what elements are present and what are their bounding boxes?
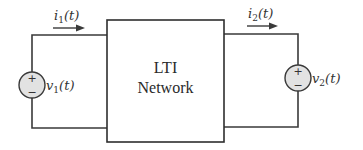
minus-sign: −: [27, 86, 36, 99]
lti-network-block: LTI Network: [107, 20, 224, 142]
v2-label: v2(t): [312, 71, 340, 88]
right-top-wire: [224, 34, 298, 65]
block-label-line2: Network: [138, 79, 194, 96]
current-i2: i2(t): [247, 6, 278, 30]
plus-sign: +: [27, 72, 36, 85]
i1-label: i1(t): [54, 8, 79, 25]
v1-argument: (t): [59, 78, 74, 93]
voltage-source-v1: + − v1(t): [19, 72, 74, 99]
two-port-network-diagram: LTI Network + − v1(t) + − v2(t) i1(t) i2…: [0, 0, 363, 150]
left-top-wire: [32, 35, 107, 72]
i2-label: i2(t): [248, 6, 273, 23]
plus-sign: +: [293, 65, 302, 78]
block-label-line1: LTI: [154, 59, 177, 76]
i1-arrowhead-icon: [76, 25, 85, 32]
right-bottom-wire: [224, 91, 298, 127]
voltage-source-v2: + − v2(t): [285, 65, 340, 92]
i2-argument: (t): [258, 6, 273, 21]
minus-sign: −: [293, 79, 302, 92]
v1-label: v1(t): [46, 78, 74, 95]
left-bottom-wire: [32, 98, 107, 128]
i1-argument: (t): [64, 8, 79, 23]
i2-arrowhead-icon: [269, 23, 278, 30]
current-i1: i1(t): [53, 8, 85, 32]
v2-argument: (t): [325, 71, 340, 86]
